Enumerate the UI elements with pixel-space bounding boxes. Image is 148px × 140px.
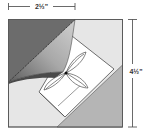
height-dimension: 4½" bbox=[128, 20, 143, 128]
width-dimension-label: 2½" bbox=[35, 3, 48, 10]
width-dimension: 2½" bbox=[9, 3, 76, 10]
quilt-block-diagram: 2½" 4½" bbox=[0, 0, 148, 140]
flower-center bbox=[65, 72, 68, 75]
height-dimension-label: 4½" bbox=[129, 68, 142, 75]
